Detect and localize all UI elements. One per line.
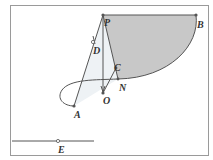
point-N	[117, 78, 120, 81]
label-D: D	[92, 45, 100, 56]
point-A	[72, 104, 75, 107]
label-B: B	[196, 19, 204, 30]
label-E: E	[57, 144, 65, 155]
point-D	[91, 40, 94, 43]
label-C: C	[114, 62, 121, 73]
label-O: O	[103, 95, 110, 106]
label-A: A	[73, 109, 81, 120]
label-N: N	[118, 82, 127, 93]
point-B	[194, 13, 197, 16]
geometry-diagram: P B D C N O A E	[0, 0, 213, 160]
point-E	[56, 139, 59, 142]
label-P: P	[104, 17, 111, 28]
